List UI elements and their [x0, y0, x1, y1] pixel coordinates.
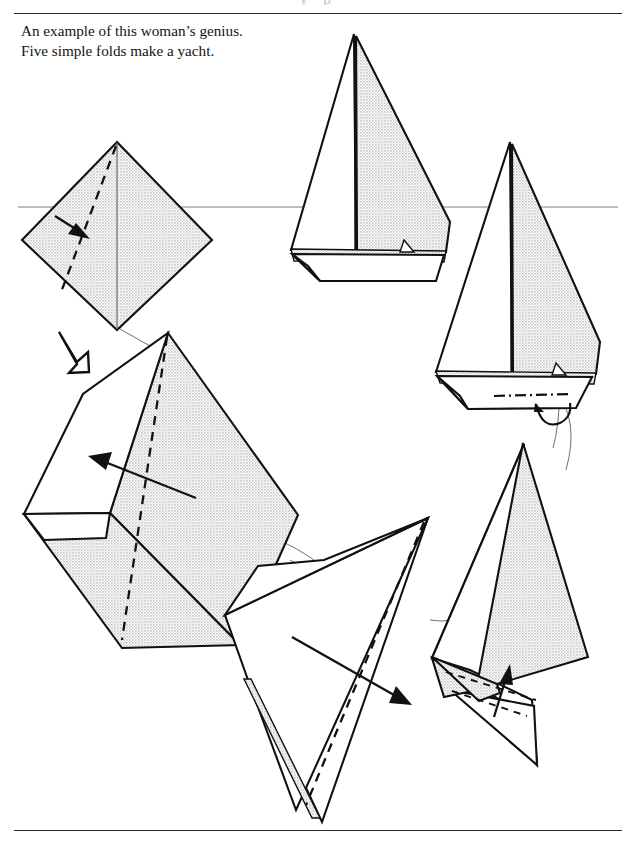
page-canvas: y p An example of this woman’s genius. F…	[0, 0, 636, 845]
turn-over-arrow	[59, 332, 89, 373]
origami-diagram	[0, 0, 636, 845]
step-4-sail-forming	[432, 443, 588, 765]
step-5-yacht-with-keel	[436, 142, 600, 424]
step-6-finished-yacht	[291, 34, 450, 281]
step-1-square-base-diamond	[22, 142, 212, 330]
